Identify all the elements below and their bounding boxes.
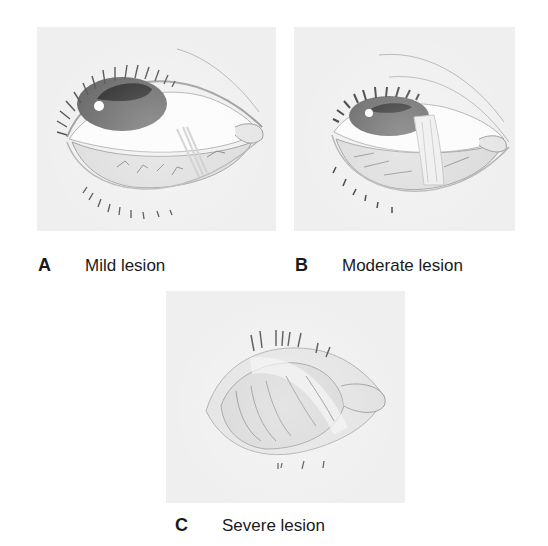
caption-a: AMild lesion [38, 255, 165, 276]
panel-a-mild-lesion-illustration [37, 27, 276, 231]
panel-c-severe-lesion-illustration [166, 291, 405, 503]
eye-mild-lesion-drawing [37, 27, 276, 231]
caption-c: CSevere lesion [175, 515, 325, 536]
caption-b: BModerate lesion [295, 255, 463, 276]
caption-b-text: Moderate lesion [342, 256, 463, 276]
panel-letter-a: A [38, 255, 51, 276]
caption-c-text: Severe lesion [222, 516, 325, 536]
eye-moderate-lesion-drawing [294, 27, 515, 231]
caption-a-text: Mild lesion [85, 256, 165, 276]
panel-letter-c: C [175, 515, 188, 536]
panel-letter-b: B [295, 255, 308, 276]
eye-severe-lesion-drawing [166, 291, 405, 503]
panel-b-moderate-lesion-illustration [294, 27, 515, 231]
